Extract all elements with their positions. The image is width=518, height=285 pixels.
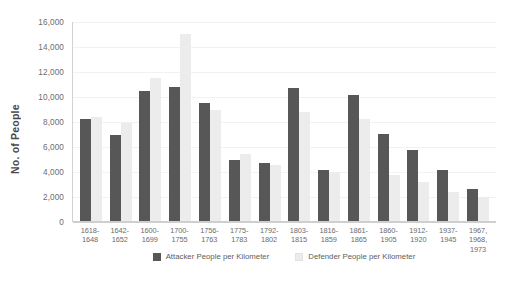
x-tick-label: 1803- 1815	[284, 226, 314, 254]
x-tick-label: 1756- 1763	[194, 226, 224, 254]
bar-attacker[interactable]	[318, 170, 329, 221]
bar-attacker[interactable]	[229, 160, 240, 221]
bar-attacker[interactable]	[80, 119, 91, 222]
y-tick-label: 6,000	[43, 143, 64, 152]
bar-defender[interactable]	[91, 117, 102, 221]
x-tick-label: 1861- 1865	[344, 226, 374, 254]
bar-defender[interactable]	[389, 175, 400, 221]
gridline	[73, 222, 496, 223]
x-tick-label: 1618- 1648	[75, 226, 105, 254]
y-tick-label: 12,000	[38, 68, 64, 77]
bar-attacker[interactable]	[437, 170, 448, 221]
x-tick-label: 1642- 1652	[105, 226, 135, 254]
bar-group	[165, 22, 195, 221]
figure-caption	[0, 276, 518, 285]
y-tick-label: 8,000	[43, 118, 64, 127]
bar-group	[404, 22, 434, 221]
bar-defender[interactable]	[478, 197, 489, 221]
bar-group	[255, 22, 285, 221]
y-tick-label: 4,000	[43, 168, 64, 177]
plot-area	[72, 22, 496, 222]
chart-legend: Attacker People per KilometerDefender Pe…	[72, 252, 496, 261]
bar-group	[433, 22, 463, 221]
bar-group	[225, 22, 255, 221]
bar-attacker[interactable]	[110, 135, 121, 221]
legend-item[interactable]: Attacker People per Kilometer	[153, 252, 270, 261]
x-tick-label: 1967, 1968, 1973	[463, 226, 493, 254]
bar-attacker[interactable]	[169, 87, 180, 221]
x-tick-label: 1700- 1755	[165, 226, 195, 254]
bar-attacker[interactable]	[467, 189, 478, 221]
bar-defender[interactable]	[270, 165, 281, 221]
x-tick-label: 1912- 1920	[403, 226, 433, 254]
bar-group	[136, 22, 166, 221]
bar-group	[106, 22, 136, 221]
bar-attacker[interactable]	[378, 134, 389, 221]
legend-label: Defender People per Kilometer	[308, 252, 415, 261]
x-tick-label: 1775- 1783	[224, 226, 254, 254]
x-axis-tick-labels: 1618- 16481642- 16521600- 16991700- 1755…	[72, 226, 496, 254]
bar-defender[interactable]	[299, 112, 310, 221]
y-tick-label: 0	[59, 218, 64, 227]
legend-swatch-icon	[153, 253, 161, 261]
bar-group	[76, 22, 106, 221]
x-tick-label: 1860- 1905	[374, 226, 404, 254]
x-tick-label: 1792- 1802	[254, 226, 284, 254]
legend-label: Attacker People per Kilometer	[166, 252, 270, 261]
bar-defender[interactable]	[329, 172, 340, 221]
bar-groups	[73, 22, 496, 221]
bar-attacker[interactable]	[259, 163, 270, 221]
bar-attacker[interactable]	[139, 91, 150, 221]
bar-defender[interactable]	[359, 119, 370, 221]
bar-defender[interactable]	[448, 192, 459, 221]
y-tick-label: 10,000	[38, 93, 64, 102]
bar-group	[374, 22, 404, 221]
bar-defender[interactable]	[240, 154, 251, 222]
bar-defender[interactable]	[210, 110, 221, 221]
bar-defender[interactable]	[121, 123, 132, 221]
y-tick-label: 2,000	[43, 193, 64, 202]
legend-item[interactable]: Defender People per Kilometer	[295, 252, 415, 261]
y-tick-label: 14,000	[38, 43, 64, 52]
bar-defender[interactable]	[150, 78, 161, 221]
bar-group	[344, 22, 374, 221]
legend-swatch-icon	[295, 253, 303, 261]
x-tick-label: 1937- 1945	[433, 226, 463, 254]
bar-group	[195, 22, 225, 221]
bar-defender[interactable]	[180, 34, 191, 222]
y-tick-label: 16,000	[38, 18, 64, 27]
bar-attacker[interactable]	[348, 95, 359, 221]
bar-attacker[interactable]	[407, 150, 418, 221]
bar-attacker[interactable]	[288, 88, 299, 221]
bar-group	[463, 22, 493, 221]
bar-chart-figure: No. of People 02,0004,0006,0008,00010,00…	[0, 0, 518, 285]
x-tick-label: 1816- 1859	[314, 226, 344, 254]
y-axis-tick-labels: 02,0004,0006,0008,00010,00012,00014,0001…	[0, 22, 70, 223]
bar-defender[interactable]	[418, 182, 429, 221]
bar-group	[314, 22, 344, 221]
bar-attacker[interactable]	[199, 103, 210, 221]
x-tick-label: 1600- 1699	[135, 226, 165, 254]
bar-group	[284, 22, 314, 221]
